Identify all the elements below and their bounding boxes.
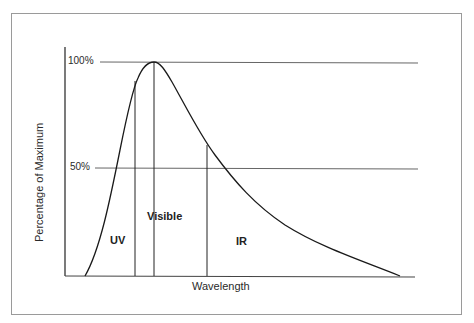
y-axis-label: Percentage of Maximum [33,123,45,242]
reference-line-50 [95,168,418,169]
region-label-visible: Visible [147,210,182,222]
x-axis-label: Wavelength [192,280,250,292]
region-label-ir: IR [236,235,247,247]
region-label-uv: UV [110,234,125,246]
x-axis [65,276,415,277]
y-tick-100: 100% [68,55,94,66]
y-tick-50: 50% [70,161,90,172]
reference-line-100 [100,62,418,63]
